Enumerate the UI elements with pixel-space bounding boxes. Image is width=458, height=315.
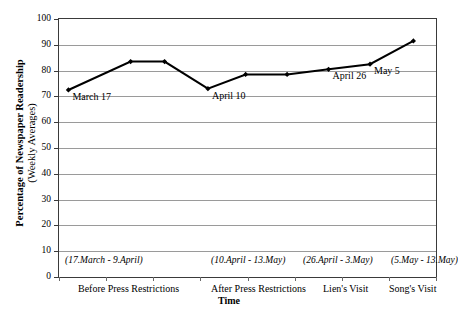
y-tick-label: 90 <box>25 40 51 50</box>
x-tick-mark <box>389 277 390 281</box>
x-axis-title: Time <box>218 295 240 306</box>
x-tick-mark <box>106 277 107 281</box>
x-tick-mark <box>436 277 437 281</box>
data-point-label: April 26 <box>333 70 367 81</box>
category-range-caption: (10.April - 13.May) <box>211 255 285 265</box>
x-tick-mark <box>153 277 154 281</box>
y-tick-label: 70 <box>25 91 51 101</box>
series-line <box>68 41 413 90</box>
x-category-label: Before Press Restrictions <box>78 283 179 294</box>
x-category-label: After Press Restrictions <box>211 283 306 294</box>
y-tick-label: 10 <box>25 246 51 256</box>
x-tick-mark <box>59 277 60 281</box>
data-point-label: May 5 <box>374 65 400 76</box>
x-tick-mark <box>248 277 249 281</box>
y-tick-label: 60 <box>25 117 51 127</box>
data-point-label: April 10 <box>212 90 246 101</box>
category-range-caption: (5.May - 13.May) <box>391 255 458 265</box>
category-range-caption: (26.April - 3.May) <box>303 255 373 265</box>
x-tick-mark <box>200 277 201 281</box>
y-tick-label: 100 <box>25 14 51 24</box>
y-tick-label: 80 <box>25 66 51 76</box>
x-category-label: Song's Visit <box>389 283 436 294</box>
category-range-caption: (17.March - 9.April) <box>65 255 143 265</box>
x-tick-mark <box>295 277 296 281</box>
data-point-marker <box>284 72 289 77</box>
data-point-marker <box>326 67 331 72</box>
y-tick-label: 20 <box>25 220 51 230</box>
y-tick-label: 0 <box>25 272 51 282</box>
y-tick-label: 40 <box>25 169 51 179</box>
readership-series <box>59 19 436 277</box>
y-tick-label: 30 <box>25 195 51 205</box>
x-tick-mark <box>342 277 343 281</box>
data-point-marker <box>243 72 248 77</box>
x-category-label: Lien's Visit <box>323 283 368 294</box>
y-tick-label: 50 <box>25 143 51 153</box>
data-point-label: March 17 <box>72 91 111 102</box>
plot-area: March 17April 10April 26May 5 (17.March … <box>58 18 437 278</box>
